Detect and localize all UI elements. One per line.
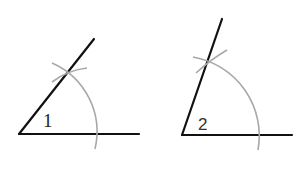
- angle-2-figure: 2: [182, 19, 292, 150]
- angle-construction-diagram: 1 2: [0, 0, 305, 174]
- angle-1-label: 1: [43, 110, 53, 131]
- angle-2-intersection-arc: [196, 50, 227, 73]
- angle-1-figure: 1: [19, 39, 139, 149]
- angle-2-label: 2: [198, 115, 207, 134]
- angle-1-construction-arc: [52, 63, 97, 149]
